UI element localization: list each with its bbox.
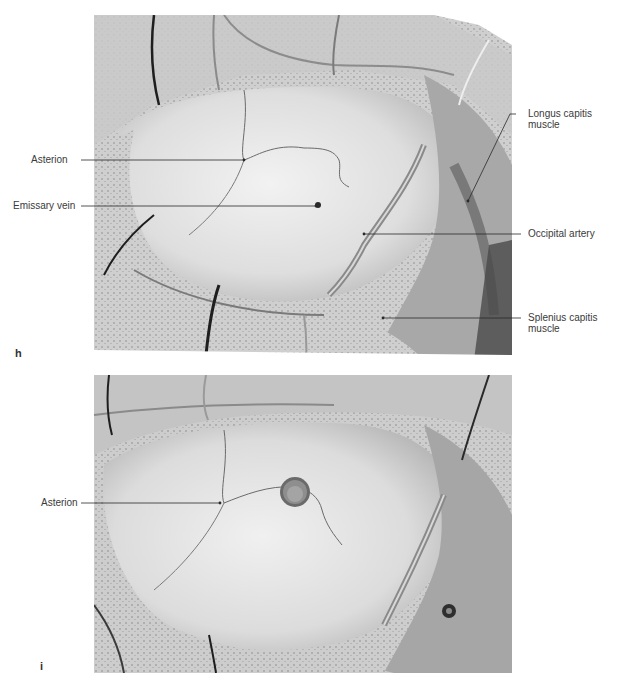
- label-longus-capitis-muscle: Longus capitis muscle: [528, 108, 598, 130]
- surgical-photo-i: [94, 375, 512, 673]
- panel-letter-h: h: [15, 347, 22, 359]
- label-asterion-h: Asterion: [31, 154, 68, 165]
- surgical-photo-h: [94, 15, 512, 360]
- label-emissary-vein: Emissary vein: [13, 200, 75, 211]
- label-occipital-artery: Occipital artery: [528, 228, 595, 239]
- panel-letter-i: i: [40, 660, 43, 672]
- label-splenius-capitis-muscle: Splenius capitis muscle: [528, 312, 606, 334]
- photo-panel-h: [94, 15, 512, 360]
- label-asterion-i: Asterion: [41, 497, 78, 508]
- photo-panel-i: [94, 375, 512, 673]
